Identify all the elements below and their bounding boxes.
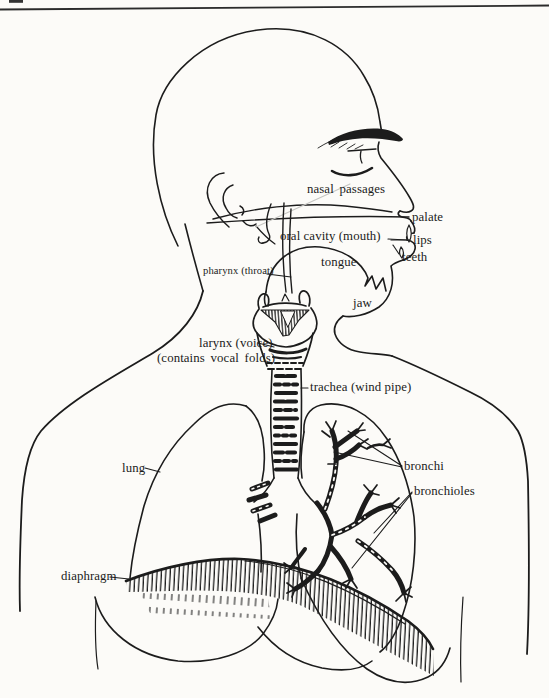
leader-lines [110,240,412,579]
label-larynx-line2: (contains vocal folds) [157,351,275,365]
hilum-cartilage-chunks [249,483,275,521]
label-lung: lung [122,461,145,475]
page-edge-mark [9,0,23,3]
label-oral-cavity: oral cavity (mouth) [280,229,381,243]
label-trachea: trachea (wind pipe) [310,380,411,394]
eyebrow [318,129,403,149]
label-diaphragm: diaphragm [61,569,117,583]
label-bronchi: bronchi [404,459,444,473]
label-pharynx: pharynx (throat) [203,265,274,277]
label-nasal-passages: nasal passages [307,182,385,196]
respiratory-diagram-artwork [0,0,549,698]
left-lung-outline [130,404,264,578]
label-lips: lips [413,233,432,247]
label-bronchioles: bronchioles [414,484,475,498]
label-larynx-line1: larynx (voice) [199,336,273,350]
diaphragm-band [126,559,434,676]
eye [332,149,376,175]
label-jaw: jaw [353,296,372,310]
label-teeth: teeth [402,250,427,264]
page-rule [0,6,549,10]
label-palate: palate [412,210,443,224]
label-tongue: tongue [321,255,356,269]
scanned-page: nasal passages palate lips teeth oral ca… [0,0,549,698]
